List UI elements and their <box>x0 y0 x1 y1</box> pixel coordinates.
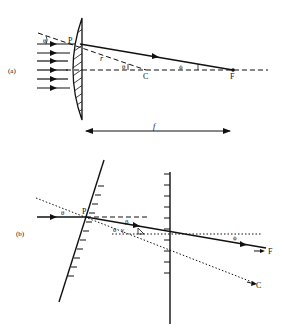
ray-arrow-a <box>152 53 159 59</box>
ray-arrowheads <box>50 41 57 91</box>
angle-theta2-label: θ <box>113 226 117 234</box>
angle-theta-label-b: θ <box>61 209 65 217</box>
f-pointer-head <box>260 249 265 253</box>
gamma-triangle <box>138 228 144 234</box>
point-p-label-b: P <box>82 207 87 216</box>
focal-length-label: f <box>153 122 157 131</box>
angle-phi-label-b: ϕ <box>233 234 237 242</box>
normal-line-a <box>38 33 146 70</box>
angle-gamma-label: γ <box>120 226 124 234</box>
plano-convex-lens <box>70 18 84 120</box>
panel-b-label: (b) <box>16 230 25 238</box>
incoming-arrow-b <box>50 214 57 220</box>
angle-beta-label: β <box>125 218 129 226</box>
point-c-label-a: C <box>143 72 148 81</box>
vertical-plane-hatch <box>164 174 170 273</box>
tilted-surface-hatch <box>68 186 104 276</box>
angle-phi-label-a: ϕ <box>179 63 183 71</box>
panel-a-label: (a) <box>8 67 16 75</box>
point-f-label-b: F <box>268 247 273 256</box>
point-c-label-b: C <box>256 281 261 290</box>
point-p-label-a: P <box>68 36 73 45</box>
optics-diagram: (a) P C F r θ θ ϕ f <box>0 0 284 334</box>
tilted-surface <box>59 160 104 302</box>
point-f-label-a: F <box>230 72 235 81</box>
panel-b: (b) P F C θ β θ γ ϕ <box>16 160 273 324</box>
radius-label: r <box>100 54 104 63</box>
panel-a: (a) P C F r θ θ ϕ f <box>8 18 268 131</box>
ray-arrow-b1 <box>133 222 140 228</box>
